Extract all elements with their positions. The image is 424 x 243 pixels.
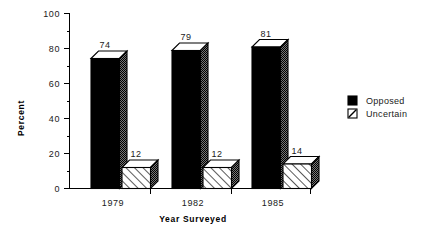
- y-tick-label-100: 100: [43, 9, 60, 19]
- x-tick-label-1985: 1985: [262, 198, 284, 208]
- bar-uncertain-1985[interactable]: [283, 157, 319, 189]
- y-tick-label-20: 20: [49, 149, 60, 159]
- bar-uncertain-1982[interactable]: [203, 160, 239, 189]
- value-label-opposed-1979: 74: [99, 40, 110, 50]
- chart-canvas: Percent 100 80 60 40 20 0: [0, 0, 424, 243]
- solid-square-icon: [348, 96, 357, 105]
- value-label-uncertain-1985: 14: [291, 146, 302, 156]
- value-label-uncertain-1982: 12: [211, 149, 222, 159]
- bar-uncertain-1979[interactable]: [122, 160, 158, 189]
- x-tick-label-1979: 1979: [102, 198, 124, 208]
- legend-item-uncertain[interactable]: Uncertain: [348, 109, 407, 119]
- y-axis-title: Percent: [16, 100, 26, 136]
- y-tick-label-60: 60: [49, 79, 60, 89]
- chart-background: [0, 0, 424, 243]
- x-axis-title: Year Surveyed: [159, 214, 227, 224]
- y-tick-label-0: 0: [54, 184, 60, 194]
- bar-chart: Percent 100 80 60 40 20 0: [0, 0, 424, 243]
- legend-label-opposed: Opposed: [366, 96, 405, 106]
- x-tick-label-1982: 1982: [182, 198, 204, 208]
- value-label-uncertain-1979: 12: [130, 149, 141, 159]
- legend-item-opposed[interactable]: Opposed: [348, 96, 405, 106]
- y-tick-label-40: 40: [49, 114, 60, 124]
- bar-opposed-1982[interactable]: [172, 43, 208, 189]
- legend-label-uncertain: Uncertain: [366, 109, 407, 119]
- y-tick-label-80: 80: [49, 44, 60, 54]
- value-label-opposed-1985: 81: [260, 29, 271, 39]
- value-label-opposed-1982: 79: [180, 32, 191, 42]
